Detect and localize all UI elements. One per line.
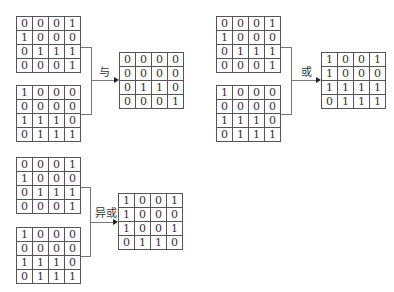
grid-cell: 0 [49, 200, 65, 214]
grid-cell: 0 [65, 31, 81, 45]
grid-cell: 1 [65, 186, 81, 200]
grid-cell: 0 [17, 17, 33, 31]
grid-cell: 0 [65, 242, 81, 256]
grid-cell: 1 [49, 45, 65, 59]
grid-cell: 0 [49, 158, 65, 172]
grid-cell: 0 [265, 86, 281, 100]
grid-cell: 0 [120, 95, 136, 109]
grid-cell: 0 [249, 17, 265, 31]
grid-cell: 0 [33, 59, 49, 73]
grid-cell: 1 [17, 256, 33, 270]
grid-cell: 0 [265, 100, 281, 114]
grid-cell: 0 [17, 128, 33, 142]
grid-cell: 0 [49, 172, 65, 186]
grid-cell: 0 [136, 67, 152, 81]
grid-cell: 0 [33, 242, 49, 256]
input-a-grid: 0001100001110001 [16, 16, 81, 73]
grid-cell: 0 [33, 31, 49, 45]
grid-row: 0001 [120, 95, 184, 109]
input-a-grid: 0001100001110001 [216, 16, 281, 73]
grid-cell: 1 [265, 59, 281, 73]
grid-cell: 0 [49, 59, 65, 73]
grid-cell: 0 [17, 270, 33, 284]
grid-cell: 1 [49, 186, 65, 200]
grid-cell: 0 [17, 59, 33, 73]
grid-cell: 1 [167, 194, 183, 208]
connector-b [81, 114, 91, 115]
connector-a [81, 47, 91, 48]
grid-cell: 1 [338, 81, 354, 95]
grid-cell: 0 [120, 53, 136, 67]
grid-cell: 0 [338, 53, 354, 67]
grid-cell: 0 [17, 100, 33, 114]
grid-cell: 1 [49, 256, 65, 270]
grid-cell: 1 [33, 186, 49, 200]
grid-cell: 0 [167, 236, 183, 250]
grid-row: 0110 [120, 81, 184, 95]
grid-row: 0111 [17, 128, 81, 142]
grid-cell: 0 [168, 67, 184, 81]
grid-cell: 0 [217, 128, 233, 142]
grid-cell: 1 [49, 128, 65, 142]
grid-cell: 0 [151, 222, 167, 236]
grid-cell: 0 [120, 67, 136, 81]
grid-cell: 1 [17, 228, 33, 242]
connector-b [281, 114, 291, 115]
grid-cell: 0 [322, 95, 338, 109]
grid-cell: 0 [17, 242, 33, 256]
grid-cell: 0 [354, 53, 370, 67]
grid-cell: 0 [233, 100, 249, 114]
grid-cell: 1 [17, 86, 33, 100]
grid-row: 0001 [17, 17, 81, 31]
grid-cell: 0 [338, 67, 354, 81]
grid-cell: 0 [17, 45, 33, 59]
grid-cell: 1 [65, 270, 81, 284]
grid-cell: 0 [49, 86, 65, 100]
grid-cell: 1 [65, 158, 81, 172]
grid-cell: 1 [217, 114, 233, 128]
grid-cell: 1 [265, 45, 281, 59]
input-b-grid: 1000000011100111 [216, 85, 281, 142]
grid-cell: 1 [249, 128, 265, 142]
connector-a [81, 187, 90, 188]
grid-cell: 1 [17, 31, 33, 45]
grid-cell: 0 [65, 172, 81, 186]
grid-cell: 0 [233, 86, 249, 100]
grid-row: 1001 [322, 53, 386, 67]
grid-row: 1001 [119, 194, 183, 208]
grid-cell: 1 [322, 67, 338, 81]
grid-cell: 1 [65, 200, 81, 214]
operation-label: 与 [99, 67, 110, 79]
grid-cell: 1 [136, 81, 152, 95]
grid-cell: 0 [65, 114, 81, 128]
grid-cell: 0 [65, 256, 81, 270]
grid-row: 0111 [17, 270, 81, 284]
grid-row: 1000 [119, 208, 183, 222]
grid-row: 1000 [17, 228, 81, 242]
grid-cell: 0 [49, 242, 65, 256]
grid-cell: 1 [65, 59, 81, 73]
grid-cell: 1 [233, 128, 249, 142]
grid-cell: 0 [370, 67, 386, 81]
arrow-line [90, 222, 114, 223]
grid-cell: 1 [33, 45, 49, 59]
grid-cell: 0 [249, 86, 265, 100]
grid-row: 1000 [17, 86, 81, 100]
grid-cell: 1 [370, 81, 386, 95]
grid-cell: 0 [233, 59, 249, 73]
grid-cell: 1 [119, 194, 135, 208]
connector-b [81, 256, 90, 257]
grid-cell: 0 [152, 67, 168, 81]
grid-cell: 0 [249, 100, 265, 114]
grid-cell: 1 [265, 17, 281, 31]
grid-cell: 0 [65, 228, 81, 242]
grid-cell: 0 [152, 95, 168, 109]
grid-cell: 0 [265, 114, 281, 128]
grid-cell: 1 [370, 53, 386, 67]
grid-row: 1000 [322, 67, 386, 81]
grid-cell: 1 [135, 236, 151, 250]
grid-cell: 0 [33, 158, 49, 172]
grid-cell: 0 [217, 100, 233, 114]
grid-row: 0000 [17, 242, 81, 256]
grid-row: 0111 [322, 95, 386, 109]
